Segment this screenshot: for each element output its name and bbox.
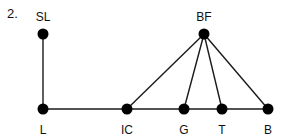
node-b — [263, 104, 274, 115]
node-ic — [122, 104, 133, 115]
node-label-t: T — [218, 123, 226, 137]
edge-bf-g — [184, 34, 204, 109]
node-t — [217, 104, 228, 115]
node-g — [179, 104, 190, 115]
node-label-g: G — [179, 123, 188, 137]
graph-edges — [43, 34, 268, 109]
node-label-ic: IC — [121, 123, 133, 137]
node-l — [38, 104, 49, 115]
node-label-bf: BF — [196, 10, 211, 24]
edge-bf-ic — [127, 34, 204, 109]
node-label-l: L — [40, 123, 47, 137]
graph-nodes — [38, 29, 274, 115]
node-label-sl: SL — [36, 10, 51, 24]
graph-labels: SLBFLICGTB — [36, 10, 272, 137]
graph-diagram: 2. SLBFLICGTB — [0, 0, 291, 138]
figure-number: 2. — [7, 6, 18, 21]
node-sl — [38, 29, 49, 40]
node-bf — [199, 29, 210, 40]
node-label-b: B — [264, 123, 272, 137]
